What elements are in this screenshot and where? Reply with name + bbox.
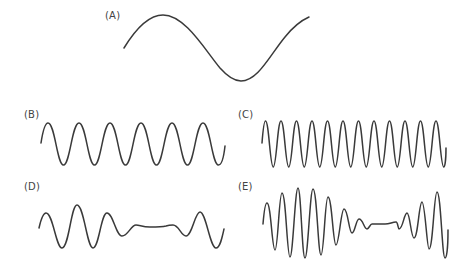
waveform-diagram — [0, 0, 466, 271]
wave-c — [262, 121, 446, 167]
wave-e — [263, 188, 448, 258]
wave-a — [124, 15, 309, 81]
wave-d — [39, 205, 224, 248]
wave-b — [41, 123, 225, 165]
